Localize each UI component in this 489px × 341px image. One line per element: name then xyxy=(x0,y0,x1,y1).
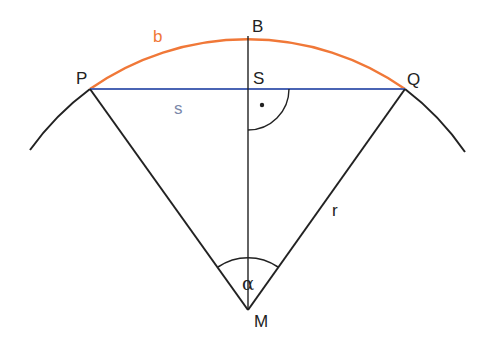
arc-chord-diagram: P B S Q M b s r α xyxy=(0,0,489,341)
label-chord-s: s xyxy=(174,99,183,118)
label-q: Q xyxy=(407,70,420,89)
right-angle-arc xyxy=(248,89,289,130)
label-b-point: B xyxy=(252,17,263,36)
label-arc-b: b xyxy=(153,27,162,46)
right-angle-dot xyxy=(260,103,264,107)
label-s-point: S xyxy=(253,69,264,88)
radius-mp xyxy=(90,89,248,310)
circle-arc-right xyxy=(405,89,465,152)
circle-arc-left xyxy=(30,89,90,150)
label-angle-alpha: α xyxy=(242,273,254,294)
label-m: M xyxy=(254,312,268,331)
label-radius-r: r xyxy=(332,201,338,220)
label-p: P xyxy=(76,69,87,88)
